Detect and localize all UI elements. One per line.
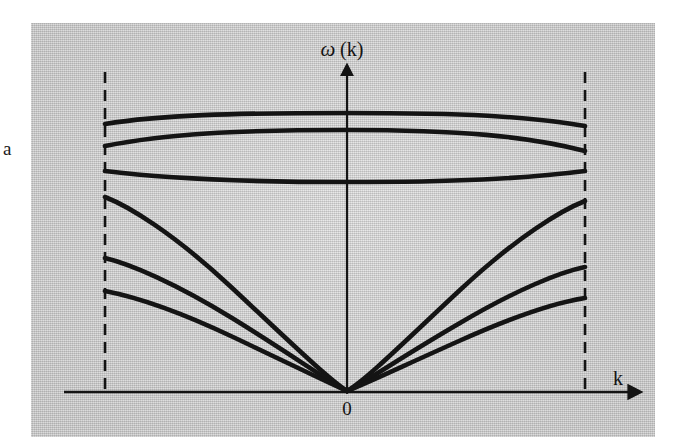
curve-acoustic-branch-2 [105, 258, 347, 391]
y-axis-label-omega: ω [321, 37, 336, 61]
origin-tick-label: 0 [342, 398, 352, 419]
y-axis-label-suffix: (k) [340, 38, 363, 61]
curve-acoustic-branch-1-mirror [347, 201, 585, 391]
curve-optical-branch-1 [105, 113, 585, 126]
curve-acoustic-branch-3 [105, 291, 347, 391]
curve-optical-branch-3 [105, 171, 585, 182]
curve-acoustic-branch-3-mirror [347, 298, 585, 391]
x-axis-label: k [613, 367, 623, 389]
phonon-dispersion-chart: ω (k) k 0 [0, 0, 688, 448]
curve-acoustic-branch-1 [105, 197, 347, 391]
curve-optical-branch-2 [105, 130, 585, 151]
page-canvas: a ω (k) k [0, 0, 688, 448]
